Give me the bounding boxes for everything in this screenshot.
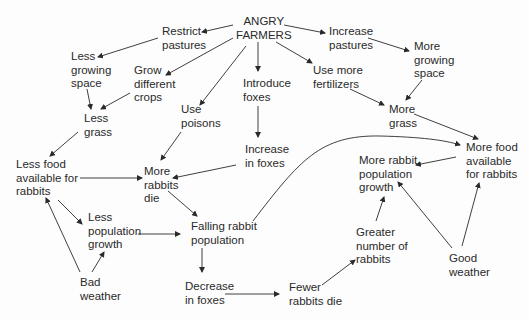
- node-angry-farmers: ANGRY FARMERS: [236, 15, 292, 42]
- node-less-food: Less food available for rabbits: [16, 158, 78, 199]
- arrow-increase-morespace: [368, 38, 409, 51]
- arrow-badweather-lesspop: [92, 252, 104, 272]
- node-increase-pastures: Increase pastures: [329, 25, 373, 52]
- arrow-morespace-moregrass: [406, 80, 422, 100]
- arrow-increasefoxes-rabbitsdie: [173, 165, 236, 178]
- node-restrict-pastures: Restrict pastures: [162, 25, 206, 52]
- node-good-weather: Good weather: [449, 252, 490, 279]
- arrow-crops-lessgrass: [101, 93, 130, 109]
- node-use-poisons: Use poisons: [181, 103, 221, 130]
- arrow-goodweather-morefood: [462, 183, 479, 246]
- node-less-population-growth: Less population growth: [88, 211, 141, 252]
- cause-effect-diagram: ANGRY FARMERS Restrict pastures Increase…: [0, 0, 529, 320]
- node-bad-weather: Bad weather: [80, 276, 121, 303]
- arrow-lessfood-lesspop: [58, 200, 82, 224]
- arrow-farmers-poisons: [200, 46, 246, 105]
- node-more-grass: More grass: [389, 103, 417, 130]
- arrow-farmers-restrict: [202, 25, 233, 32]
- node-more-growing-space: More growing space: [414, 40, 454, 81]
- node-less-grass: Less grass: [84, 112, 112, 139]
- arrow-farmers-fertilizers: [276, 42, 312, 63]
- node-more-food: More food available for rabbits: [466, 141, 518, 182]
- node-more-rabbit-growth: More rabbit population growth: [359, 154, 417, 195]
- node-use-more-fertilizers: Use more fertilizers: [313, 64, 363, 91]
- node-decrease-in-foxes: Decrease in foxes: [185, 280, 234, 307]
- node-less-growing-space: Less growing space: [71, 50, 111, 91]
- node-introduce-foxes: Introduce foxes: [243, 77, 291, 104]
- arrow-moregrass-morefood: [414, 114, 478, 139]
- arrow-lessspace-lessgrass: [87, 89, 91, 109]
- node-grow-different-crops: Grow different crops: [134, 64, 175, 105]
- node-increase-in-foxes: Increase in foxes: [245, 143, 289, 170]
- node-fewer-rabbits-die: Fewer rabbits die: [289, 281, 342, 308]
- arrow-poisons-rabbitsdie: [161, 132, 181, 160]
- arrow-lessgrass-lessfood: [50, 132, 78, 156]
- arrow-fertilizers-moregrass: [350, 89, 384, 105]
- arrow-greater-moregrowth: [376, 197, 384, 221]
- node-more-rabbits-die: More rabbits die: [144, 165, 179, 206]
- node-falling-rabbit-population: Falling rabbit population: [191, 220, 257, 247]
- arrow-badweather-lessfood: [46, 198, 80, 272]
- node-greater-number-of-rabbits: Greater number of rabbits: [356, 226, 408, 267]
- arrow-morefood-moregrowth: [416, 157, 456, 165]
